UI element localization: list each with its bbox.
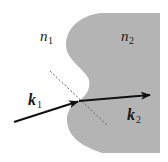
incident-wave-vector-label: k1 bbox=[28, 91, 42, 110]
medium-2-region bbox=[66, 13, 160, 153]
medium-1-label: n1 bbox=[40, 28, 53, 46]
refraction-diagram: n1 n2 k1 k2 bbox=[0, 0, 168, 162]
